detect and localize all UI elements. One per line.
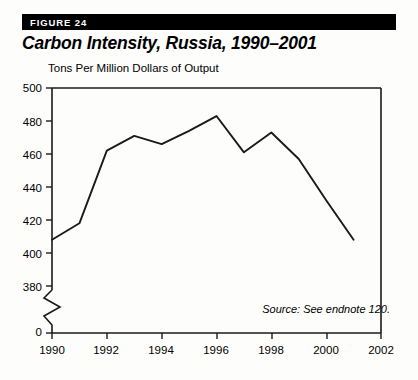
line-chart-plot [0,0,418,380]
data-series-line [52,116,354,240]
chart-axes [44,88,381,339]
figure-page: FIGURE 24 Carbon Intensity, Russia, 1990… [0,0,418,380]
